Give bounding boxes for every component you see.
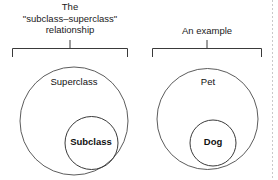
caption-left-line-2: "subclass–superclass" bbox=[10, 13, 130, 25]
caption-right-line-1: An example bbox=[150, 25, 264, 37]
caption-left-line-3: relationship bbox=[10, 24, 130, 36]
bracket-right bbox=[153, 41, 262, 57]
bracket-left bbox=[13, 41, 128, 57]
caption-left-line-1: The bbox=[10, 1, 130, 13]
caption-an-example: An example bbox=[150, 25, 264, 37]
subclass-label: Subclass bbox=[62, 136, 120, 147]
superclass-label: Superclass bbox=[24, 76, 124, 87]
caption-subclass-superclass-relationship: The "subclass–superclass" relationship bbox=[10, 1, 130, 36]
diagram-canvas: The "subclass–superclass" relationship A… bbox=[0, 0, 278, 180]
pet-label: Pet bbox=[158, 76, 258, 87]
dog-label: Dog bbox=[190, 136, 236, 147]
